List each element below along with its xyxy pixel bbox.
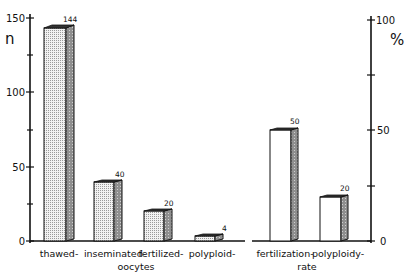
right-tick-0: 0	[380, 236, 386, 247]
category-inseminated: inseminated-	[84, 248, 146, 259]
value-label-thawed: 144	[63, 15, 78, 24]
bar-fertilized: 20	[144, 199, 174, 241]
left-axis-title: n	[5, 30, 15, 48]
bar-chart: 150 100 50 0 n 100 50 0 % 144 40	[0, 0, 414, 280]
category-polyploid: polyploid-	[189, 248, 236, 259]
bar-fertilization-rate: 50	[270, 117, 300, 241]
left-tick-0: 0	[19, 236, 25, 247]
left-tick-100: 100	[6, 87, 25, 98]
bar-polyploid: 4	[195, 224, 227, 241]
right-tick-100: 100	[376, 15, 395, 26]
value-label-polyploidy-rate: 20	[340, 184, 350, 193]
bar-polyploidy-rate: 20	[320, 184, 350, 241]
right-tick-50: 50	[377, 125, 390, 136]
left-tick-50: 50	[12, 162, 25, 173]
category-polyploidy: polyploidy-	[312, 248, 364, 259]
category-footer-oocytes: oocytes	[118, 261, 155, 272]
left-tick-150: 150	[6, 13, 25, 24]
category-footer-rate: rate	[297, 261, 316, 272]
bar-thawed: 144	[44, 15, 78, 241]
value-label-inseminated: 40	[115, 170, 125, 179]
category-thawed: thawed-	[40, 248, 79, 259]
right-y-axis: 100 50 0 %	[367, 15, 404, 247]
right-category-labels: fertilization- polyploidy- rate	[256, 248, 364, 272]
category-fertilized: fertilized-	[138, 248, 183, 259]
left-y-axis: 150 100 50 0 n	[5, 13, 34, 247]
value-label-fertilization-rate: 50	[290, 117, 300, 126]
bar-inseminated: 40	[94, 170, 125, 241]
right-axis-title: %	[390, 31, 404, 49]
category-fertilization: fertilization-	[256, 248, 313, 259]
left-category-labels: thawed- inseminated- fertilized- polyplo…	[40, 248, 236, 272]
value-label-fertilized: 20	[164, 199, 174, 208]
value-label-polyploid: 4	[222, 224, 227, 233]
